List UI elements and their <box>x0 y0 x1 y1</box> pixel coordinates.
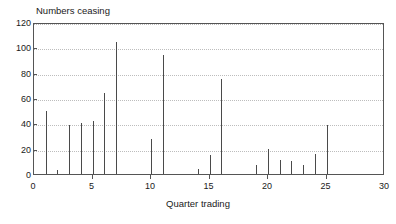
chart-title: Numbers ceasing <box>36 5 110 17</box>
gridline-y-40 <box>34 125 383 126</box>
y-tick-mark-60 <box>33 99 37 100</box>
y-tick-label-60: 60 <box>3 95 31 104</box>
y-tick-label-80: 80 <box>3 70 31 79</box>
chart-figure: Numbers ceasing 020406080100120 05101520… <box>0 0 396 224</box>
x-tick-mark-10 <box>150 175 151 179</box>
y-tick-mark-100 <box>33 48 37 49</box>
bar <box>256 165 257 174</box>
bar <box>93 121 94 174</box>
bar <box>303 165 304 174</box>
x-tick-label-30: 30 <box>372 181 396 191</box>
y-tick-label-0: 0 <box>3 171 31 180</box>
plot-area <box>33 23 384 175</box>
bar <box>210 155 211 174</box>
bar <box>163 55 164 174</box>
gridline-y-60 <box>34 100 383 101</box>
x-tick-mark-20 <box>267 175 268 179</box>
gridline-y-100 <box>34 49 383 50</box>
bar <box>315 154 316 174</box>
bar <box>151 139 152 174</box>
y-tick-label-20: 20 <box>3 146 31 155</box>
x-tick-label-25: 25 <box>314 181 338 191</box>
y-tick-mark-80 <box>33 74 37 75</box>
bar <box>69 125 70 174</box>
x-axis-title: Quarter trading <box>0 198 396 209</box>
y-tick-label-100: 100 <box>3 44 31 53</box>
bar <box>221 79 222 174</box>
x-tick-label-0: 0 <box>21 181 45 191</box>
y-tick-label-120: 120 <box>3 19 31 28</box>
bar <box>198 169 199 174</box>
x-tick-label-10: 10 <box>138 181 162 191</box>
bar <box>116 42 117 174</box>
bar <box>280 160 281 174</box>
bar <box>327 125 328 174</box>
x-tick-label-5: 5 <box>80 181 104 191</box>
gridline-y-80 <box>34 75 383 76</box>
bar <box>81 123 82 174</box>
x-tick-label-20: 20 <box>255 181 279 191</box>
bar <box>104 93 105 174</box>
x-tick-mark-25 <box>326 175 327 179</box>
bar <box>57 170 58 174</box>
y-axis-tick-labels: 020406080100120 <box>0 23 31 175</box>
x-tick-mark-15 <box>209 175 210 179</box>
y-tick-mark-20 <box>33 150 37 151</box>
gridline-y-20 <box>34 151 383 152</box>
x-tick-label-15: 15 <box>197 181 221 191</box>
bar <box>268 149 269 174</box>
gridline-y-120 <box>34 24 383 25</box>
y-tick-mark-40 <box>33 124 37 125</box>
bar <box>46 111 47 174</box>
y-tick-label-40: 40 <box>3 120 31 129</box>
x-tick-mark-5 <box>92 175 93 179</box>
bar <box>291 161 292 174</box>
